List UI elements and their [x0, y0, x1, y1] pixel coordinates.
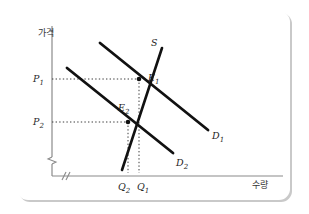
equilibrium-point-e1: [137, 77, 142, 82]
axes-group: [48, 26, 283, 180]
x-tick-q2-sub: 2: [126, 187, 130, 195]
x-tick-q1-base: Q: [137, 181, 145, 192]
demand-d1-sub: 1: [220, 136, 224, 144]
equilibrium-label-e2: E2: [118, 102, 129, 116]
y-tick-label-p1: P1: [33, 73, 44, 87]
x-tick-label-q2: Q2: [118, 181, 130, 195]
equilibrium-point-e2: [126, 120, 131, 125]
y-tick-label-p2: P2: [33, 116, 44, 130]
y-tick-p1-sub: 1: [39, 79, 43, 87]
supply-curve-label: S: [151, 37, 158, 48]
curves-group: [67, 43, 208, 170]
x-tick-label-q1: Q1: [137, 181, 149, 195]
supply-curve-label-text: S: [151, 37, 158, 48]
y-tick-p2-sub: 2: [39, 122, 43, 130]
demand-curve-d2-label: D2: [176, 157, 188, 171]
y-axis-title: 가격: [38, 26, 54, 39]
supply-demand-figure: 가격 수량 P1 P2 Q2 Q1 S D1 D2 E1 E2: [0, 0, 309, 214]
demand-curve-d1-label: D1: [212, 130, 224, 144]
y-axis-break-zigzag: [48, 157, 56, 164]
x-tick-q1-sub: 1: [145, 187, 149, 195]
demand-d1-base: D: [212, 130, 220, 141]
x-tick-q2-base: Q: [118, 181, 126, 192]
equilibrium-e2-base: E: [118, 102, 125, 113]
x-axis-title: 수량: [252, 178, 268, 191]
equilibrium-e1-base: E: [148, 72, 155, 83]
equilibrium-e1-sub: 1: [155, 78, 159, 86]
equilibrium-e2-sub: 2: [125, 108, 129, 116]
equilibrium-label-e1: E1: [148, 72, 159, 86]
demand-d2-base: D: [176, 157, 184, 168]
demand-curve-d1: [100, 43, 208, 130]
demand-d2-sub: 2: [184, 163, 188, 171]
